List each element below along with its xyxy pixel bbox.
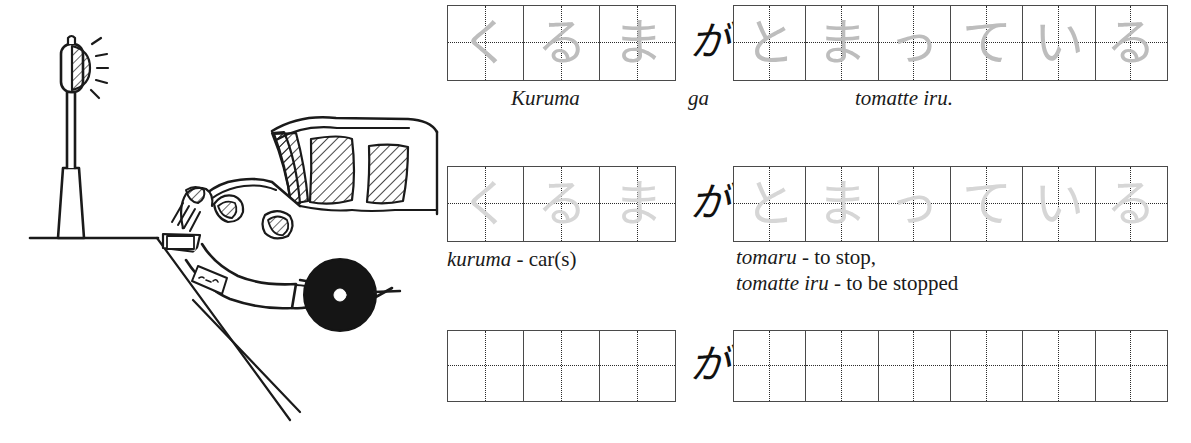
- grid-cell[interactable]: [1023, 331, 1095, 401]
- grid-cell[interactable]: [1096, 331, 1167, 401]
- worksheet-page: く る ま が と ま っ て い る: [0, 0, 1191, 443]
- kana-glyph: っ: [879, 167, 950, 241]
- license-plate-upper: [167, 236, 194, 249]
- caption-tomaru-gloss: tomaru - to stop, tomatte iru - to be st…: [736, 245, 958, 296]
- grid-cell[interactable]: っ: [879, 6, 951, 80]
- grid-cell[interactable]: る: [524, 6, 600, 80]
- grid-blank-left[interactable]: [447, 330, 676, 402]
- caption-romaji: tomatte iru.: [855, 86, 953, 110]
- kana-glyph: て: [951, 6, 1022, 80]
- particle-ga: が: [690, 344, 730, 384]
- grid-cell[interactable]: く: [448, 6, 524, 80]
- grid-cell[interactable]: と: [734, 167, 806, 241]
- caption-kuruma-model: Kuruma: [511, 86, 580, 112]
- grid-cell[interactable]: く: [448, 167, 524, 241]
- gloss-line-1: tomaru - to stop,: [736, 245, 958, 271]
- grid-cell[interactable]: る: [1096, 167, 1167, 241]
- gloss-line-2: tomatte iru - to be stopped: [736, 271, 958, 297]
- grid-blank-right[interactable]: [733, 330, 1168, 402]
- grid-cell[interactable]: [448, 331, 524, 401]
- kana-glyph: る: [524, 6, 599, 80]
- caption-kuruma-gloss: kuruma - car(s): [447, 247, 576, 273]
- kana-glyph: る: [1096, 6, 1167, 80]
- kana-glyph: く: [448, 167, 523, 241]
- grid-cell[interactable]: て: [951, 167, 1023, 241]
- caption-romaji: Kuruma: [511, 86, 580, 110]
- kana-glyph: い: [1023, 6, 1094, 80]
- grid-cell[interactable]: い: [1023, 167, 1095, 241]
- grid-cell[interactable]: っ: [879, 167, 951, 241]
- grid-cell[interactable]: て: [951, 6, 1023, 80]
- gloss-english: - car(s): [511, 247, 576, 271]
- grid-cell[interactable]: [524, 331, 600, 401]
- grid-cell[interactable]: ま: [600, 167, 675, 241]
- grid-cell[interactable]: ま: [806, 167, 878, 241]
- grid-cell[interactable]: [600, 331, 675, 401]
- gloss-romaji: tomatte iru: [736, 271, 829, 295]
- gloss-english: - to stop,: [797, 245, 876, 269]
- kana-glyph: と: [734, 6, 805, 80]
- grid-kuruma-model[interactable]: く る ま: [447, 5, 676, 81]
- kana-glyph: い: [1023, 167, 1094, 241]
- grid-cell[interactable]: い: [1023, 6, 1095, 80]
- caption-ga-romaji: ga: [688, 86, 709, 112]
- kana-glyph: る: [1096, 167, 1167, 241]
- particle-ga: が: [690, 182, 730, 222]
- grid-cell[interactable]: と: [734, 6, 806, 80]
- grid-cell[interactable]: [951, 331, 1023, 401]
- grid-cell[interactable]: る: [524, 167, 600, 241]
- gloss-english: - to be stopped: [829, 271, 958, 295]
- gloss-romaji: tomaru: [736, 245, 797, 269]
- grid-tomatte-iru-model[interactable]: と ま っ て い る: [733, 5, 1168, 81]
- grid-cell[interactable]: ま: [600, 6, 675, 80]
- grid-kuruma-trace[interactable]: く る ま: [447, 166, 676, 242]
- illustration-car-at-traffic-light: [0, 0, 440, 443]
- kana-glyph: く: [448, 6, 523, 80]
- caption-romaji: ga: [688, 86, 709, 110]
- kana-glyph: ま: [806, 167, 877, 241]
- grid-cell[interactable]: [734, 331, 806, 401]
- kana-glyph: ま: [600, 167, 675, 241]
- kana-glyph: っ: [879, 6, 950, 80]
- particle-ga: が: [690, 21, 730, 61]
- kana-glyph: て: [951, 167, 1022, 241]
- kana-practice-sheet: く る ま が と ま っ て い る: [440, 0, 1191, 443]
- grid-cell[interactable]: ま: [806, 6, 878, 80]
- caption-tomatte-iru-model: tomatte iru.: [855, 86, 953, 112]
- grid-tomatte-iru-trace[interactable]: と ま っ て い る: [733, 166, 1168, 242]
- grid-cell[interactable]: [806, 331, 878, 401]
- kana-glyph: る: [524, 167, 599, 241]
- car: [163, 117, 437, 331]
- kana-glyph: ま: [600, 6, 675, 80]
- grid-cell[interactable]: る: [1096, 6, 1167, 80]
- road-lines: [157, 238, 300, 420]
- gloss-romaji: kuruma: [447, 247, 511, 271]
- kana-glyph: と: [734, 167, 805, 241]
- hubcap: [334, 289, 346, 301]
- kana-glyph: ま: [806, 6, 877, 80]
- traffic-light: [58, 36, 108, 238]
- grid-cell[interactable]: [879, 331, 951, 401]
